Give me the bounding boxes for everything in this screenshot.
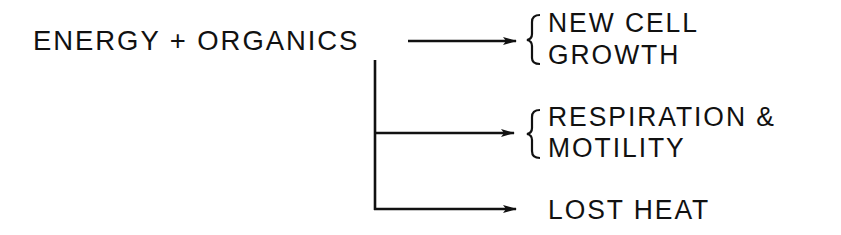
output-lost-heat: LOST HEAT bbox=[548, 196, 710, 224]
brace-respiration-motility bbox=[527, 110, 540, 158]
output-new-cell-line1: NEW CELL bbox=[548, 9, 699, 37]
brace-new-cell-growth bbox=[527, 15, 540, 64]
energy-flow-diagram: ENERGY + ORGANICS NEW CELL GROWTH RESPIR… bbox=[0, 0, 841, 235]
output-respiration-line2: MOTILITY bbox=[548, 134, 686, 162]
source-label: ENERGY + ORGANICS bbox=[33, 27, 359, 55]
output-new-cell-line2: GROWTH bbox=[548, 41, 680, 69]
output-respiration-line1: RESPIRATION & bbox=[548, 103, 776, 131]
